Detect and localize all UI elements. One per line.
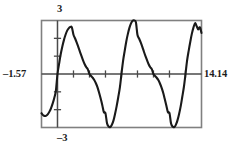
- x-max-label: 14.14: [204, 69, 227, 80]
- x-min-label: –1.57: [3, 69, 26, 80]
- graph-plot-container: 3 –3 –1.57 14.14: [0, 0, 234, 148]
- graph-canvas: [0, 0, 234, 148]
- y-min-label: –3: [57, 133, 67, 144]
- y-max-label: 3: [57, 4, 62, 15]
